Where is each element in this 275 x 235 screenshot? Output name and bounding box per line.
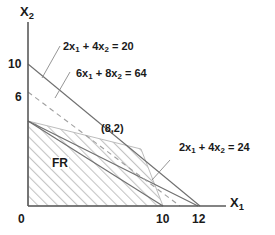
eq1-tail: = 20 (109, 40, 134, 52)
eq2-tail: = 64 (122, 67, 147, 79)
eq3-c1: 2x (179, 141, 191, 153)
eq3-tail: = 24 (225, 141, 250, 153)
leader-line-eq20 (42, 46, 60, 78)
x-tick-label-10: 10 (156, 213, 169, 225)
eq3-mid: + 4x (196, 141, 221, 153)
x-tick-label-12: 12 (192, 213, 205, 225)
equation-label-2x1-4x2-24: 2x1 + 4x2 = 24 (179, 142, 250, 155)
lp-feasible-region-chart: X2 X1 10 6 0 10 12 2x1 + 4x2 = 20 6x1 + … (0, 0, 275, 235)
x-axis-label-sub: 1 (239, 202, 244, 212)
equation-label-2x1-4x2-20: 2x1 + 4x2 = 20 (63, 41, 134, 54)
leader-line-eq24 (152, 160, 170, 180)
x-axis-label: X1 (230, 196, 244, 212)
y-tick-label-10: 10 (8, 58, 21, 70)
eq1-mid: + 4x (80, 40, 105, 52)
y-axis-label: X2 (20, 5, 34, 21)
eq2-mid: + 8x (93, 67, 118, 79)
eq1-c1: 2x (63, 40, 75, 52)
vertex-annotation-8-2: (8,2) (101, 123, 124, 134)
eq2-c1: 6x (76, 67, 88, 79)
leader-line-eq64 (55, 72, 70, 98)
y-axis-label-base: X (20, 4, 29, 19)
x-tick-label-0: 0 (18, 213, 25, 225)
feasible-region-label: FR (51, 157, 69, 169)
y-tick-label-6: 6 (15, 91, 22, 103)
equation-label-6x1-8x2-64: 6x1 + 8x2 = 64 (76, 68, 147, 81)
x-axis-label-base: X (230, 195, 239, 210)
y-axis-label-sub: 2 (29, 11, 34, 21)
